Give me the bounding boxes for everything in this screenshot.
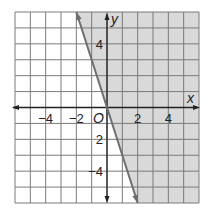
x-axis-label: x — [186, 90, 195, 106]
line-arrow-bottom-icon — [132, 194, 138, 203]
x-tick-label: 2 — [134, 111, 141, 126]
x-tick-label: 4 — [165, 111, 172, 126]
y-tick-label: 2 — [96, 132, 103, 147]
y-tick-label: 4 — [96, 37, 103, 52]
x-tick-label: −2 — [69, 111, 84, 126]
y-arrow-down-icon — [105, 196, 110, 203]
coordinate-plane-chart: −4−22442−4 x y O — [0, 0, 204, 210]
y-axis-label: y — [110, 11, 119, 27]
y-tick-label: −4 — [88, 164, 103, 179]
origin-label: O — [93, 110, 104, 126]
x-tick-label: −4 — [38, 111, 53, 126]
